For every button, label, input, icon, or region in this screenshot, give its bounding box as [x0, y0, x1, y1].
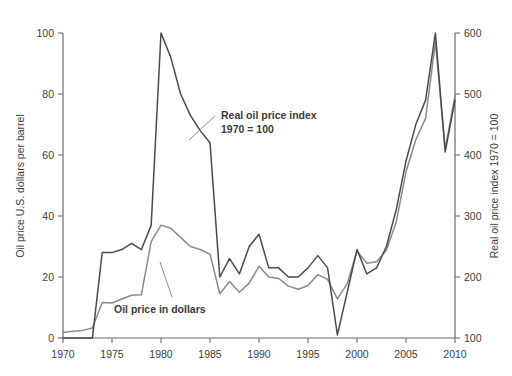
series-line-real-oil-price-index	[63, 33, 455, 338]
x-tick-label: 1985	[198, 348, 222, 360]
x-tick-label: 1980	[149, 348, 173, 360]
left-tick-label: 40	[42, 210, 54, 222]
left-tick-label: 100	[36, 27, 54, 39]
x-axis: 197019751980198519901995200020052010	[51, 338, 467, 360]
annotation-real-index-line2: 1970 = 100	[221, 123, 274, 135]
right-tick-label: 600	[464, 27, 482, 39]
left-axis-tick-labels: 020406080100	[36, 27, 54, 344]
x-axis-ticks	[63, 338, 455, 343]
left-tick-label: 80	[42, 88, 54, 100]
x-tick-label: 1975	[100, 348, 124, 360]
left-axis: 020406080100 Oil price U.S. dollars per …	[14, 27, 63, 344]
chart-svg: 020406080100 Oil price U.S. dollars per …	[0, 0, 512, 376]
right-tick-label: 400	[464, 149, 482, 161]
left-tick-label: 20	[42, 271, 54, 283]
x-tick-label: 2000	[345, 348, 369, 360]
right-tick-label: 100	[464, 332, 482, 344]
annotation-real-index-line1: Real oil price index	[221, 109, 317, 121]
right-axis: 100200300400500600 Real oil price index …	[455, 27, 500, 344]
left-tick-label: 60	[42, 149, 54, 161]
left-axis-ticks	[58, 33, 63, 338]
right-axis-tick-labels: 100200300400500600	[464, 27, 482, 344]
right-axis-title: Real oil price index 1970 = 100	[488, 114, 500, 259]
right-tick-label: 200	[464, 271, 482, 283]
right-tick-label: 500	[464, 88, 482, 100]
x-tick-label: 2005	[394, 348, 418, 360]
left-tick-label: 0	[48, 332, 54, 344]
annotation-nominal-label: Oil price in dollars	[114, 303, 206, 315]
annotation-real-oil-price-index: Real oil price index 1970 = 100	[189, 109, 317, 140]
x-tick-label: 2010	[443, 348, 467, 360]
right-axis-ticks	[455, 33, 460, 338]
x-tick-label: 1990	[247, 348, 271, 360]
left-axis-title: Oil price U.S. dollars per barrel	[14, 114, 26, 258]
series-group	[63, 33, 455, 338]
annotation-oil-price-in-dollars: Oil price in dollars	[114, 262, 206, 315]
x-tick-label: 1970	[51, 348, 75, 360]
series-line-oil-price-in-dollars	[63, 42, 455, 332]
right-tick-label: 300	[464, 210, 482, 222]
x-axis-tick-labels: 197019751980198519901995200020052010	[51, 348, 467, 360]
leader-line-nominal	[160, 262, 172, 297]
x-tick-label: 1995	[296, 348, 320, 360]
oil-price-chart: 020406080100 Oil price U.S. dollars per …	[0, 0, 512, 376]
